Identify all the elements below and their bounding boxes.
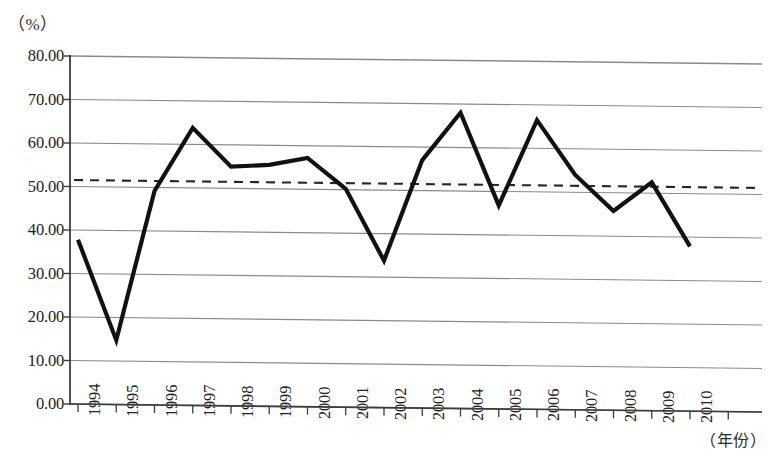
reference-line-average [74, 180, 760, 188]
gridline-80.00 [70, 56, 762, 64]
x-axis-line [70, 404, 762, 412]
gridline-40.00 [70, 230, 762, 238]
plot-area [0, 0, 775, 470]
gridline-10.00 [70, 361, 762, 369]
gridline-30.00 [70, 274, 762, 282]
gridline-60.00 [70, 143, 762, 151]
reference-line-group [74, 180, 760, 188]
gridline-70.00 [70, 100, 762, 108]
axis-ticks-group [64, 56, 728, 420]
gridlines-group [70, 56, 762, 412]
gridline-20.00 [70, 317, 762, 325]
line-chart: （%） （年份） 0.0010.0020.0030.0040.0050.0060… [0, 0, 775, 470]
